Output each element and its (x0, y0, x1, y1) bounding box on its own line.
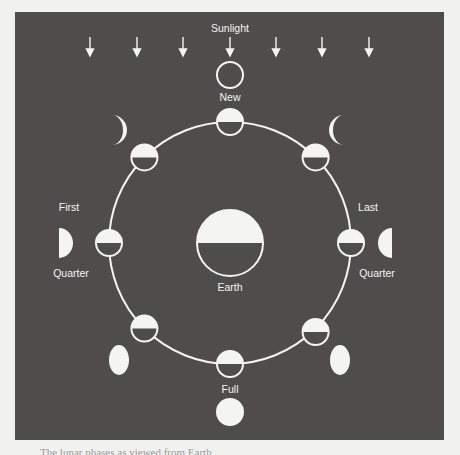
sunlight-label: Sunlight (211, 22, 249, 34)
moon-waning-gibbous-position (303, 319, 329, 345)
full-moon-icon (216, 398, 244, 426)
new-label: New (219, 91, 240, 103)
last-quarter-label: Quarter (359, 267, 395, 279)
arrow-icon (319, 37, 326, 56)
full-label: Full (222, 383, 239, 395)
moon-waning-crescent-position (303, 144, 329, 170)
waxing-crescent-icon (112, 115, 127, 145)
arrow-icon (227, 37, 234, 56)
waning-gibbous-icon (330, 345, 350, 375)
earth (197, 210, 263, 276)
sunlight-arrows (87, 37, 373, 56)
moon-waxing-gibbous-position (131, 316, 157, 342)
last-quarter-icon (378, 228, 392, 258)
waning-crescent-icon (329, 115, 344, 145)
moon-waxing-crescent-position (131, 144, 157, 170)
moon-new-position (217, 109, 243, 135)
first-label: First (59, 201, 79, 213)
arrow-icon (366, 37, 373, 56)
arrow-icon (180, 37, 187, 56)
arrow-icon (134, 37, 141, 56)
moon-last-quarter-position (338, 230, 364, 256)
moon-first-quarter-position (96, 230, 122, 256)
new-moon-icon (217, 62, 243, 88)
earth-label: Earth (217, 281, 242, 293)
first-quarter-label: Quarter (53, 267, 89, 279)
waxing-gibbous-icon (109, 345, 129, 375)
arrow-icon (273, 37, 280, 56)
figure-caption: The lunar phases as viewed from Earth (40, 446, 212, 455)
arrow-icon (87, 37, 94, 56)
first-quarter-icon (59, 228, 73, 258)
last-label: Last (358, 201, 378, 213)
moon-full-position (217, 351, 243, 377)
